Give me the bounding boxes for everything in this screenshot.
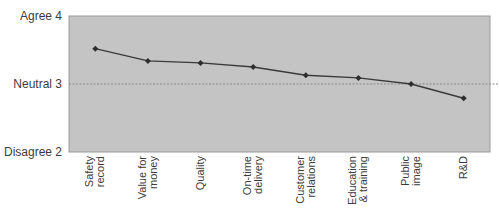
y-tick-label: Agree 4 — [20, 10, 62, 22]
x-category-label: Quality — [195, 156, 206, 206]
y-tick-label: Neutral 3 — [13, 78, 62, 90]
x-category-label: Value for money — [137, 156, 159, 206]
x-category-label: Safety record — [84, 156, 106, 206]
x-category-label: R&D — [458, 156, 469, 206]
x-category-label: Education & training — [347, 156, 369, 206]
y-tick-label: Disagree 2 — [4, 146, 62, 158]
x-category-label: Customer relations — [295, 156, 317, 206]
x-category-label: On-time delivery — [242, 156, 264, 206]
line-chart: Agree 4Neutral 3Disagree 2 Safety record… — [0, 0, 499, 214]
x-category-label: Public image — [400, 156, 422, 206]
